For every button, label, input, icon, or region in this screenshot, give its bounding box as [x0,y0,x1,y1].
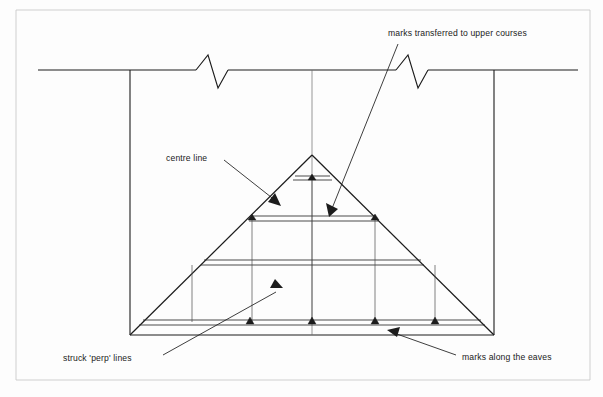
course-band-upper [249,216,378,221]
page-frame [16,10,590,380]
arrowhead-marks-transferred [326,203,338,217]
wall-outline [38,55,578,335]
eaves-mark-4 [431,317,439,324]
label-marks-transferred-to-upper-courses: marks transferred to upper courses [388,28,527,38]
label-struck-perp-lines: struck 'perp' lines [63,353,132,363]
roof-rake-left [130,155,312,335]
course-band-middle [201,260,424,265]
annotation-texts: marks transferred to upper courses centr… [63,28,552,363]
figure-canvas: marks transferred to upper courses centr… [0,0,603,397]
leader-centre-line [224,160,276,201]
break-symbol-right [396,55,428,88]
break-symbol-left [196,55,228,88]
arrowhead-centre-line [268,193,281,206]
roof-rake-right [312,155,494,335]
leader-struck-perp [163,292,276,355]
arrowhead-struck-perp [270,279,283,288]
eaves-mark-2 [308,317,316,324]
label-marks-along-the-eaves: marks along the eaves [462,352,552,362]
eaves-mark-3 [371,317,379,324]
leader-marks-eaves [394,333,456,355]
leader-marks-transferred [331,44,398,211]
gable-setting-out-diagram: marks transferred to upper courses centr… [0,0,603,397]
annotation-leaders [163,44,456,355]
label-centre-line: centre line [166,153,207,163]
struck-perp-lines [192,178,435,322]
eaves-mark-1 [246,317,254,324]
course-mark-apex [308,174,316,180]
